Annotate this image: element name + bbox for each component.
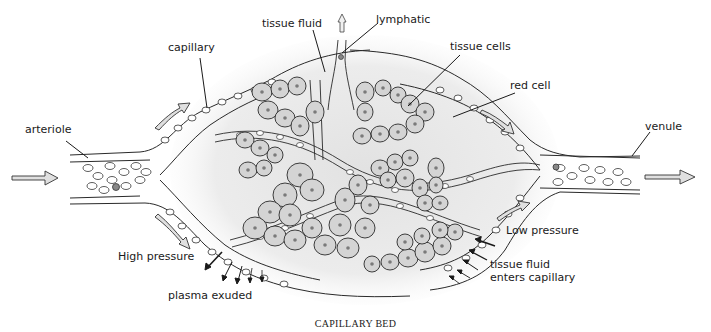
lymphocyte <box>339 55 344 60</box>
label-capillary: capillary <box>168 41 215 54</box>
leader-venule <box>632 132 650 156</box>
label-tissue-fluid: tissue fluid <box>262 17 322 30</box>
label-plasma-exuded: plasma exuded <box>168 289 252 302</box>
label-tissue-cells: tissue cells <box>450 40 511 53</box>
diagram-artwork <box>0 0 711 332</box>
label-red-cell: red cell <box>510 79 550 92</box>
figure-caption: CAPILLARY BED <box>0 318 711 329</box>
leader-arteriole <box>66 141 88 158</box>
label-lymphatic: lymphatic <box>376 13 430 26</box>
label-arteriole: arteriole <box>25 123 71 136</box>
inflow-arrow <box>12 171 58 185</box>
label-tissue-fluid-enters-line1: tissue fluid <box>490 258 550 271</box>
label-high-pressure: High pressure <box>118 250 194 263</box>
label-tissue-fluid-enters-line2: enters capillary <box>490 271 575 284</box>
label-low-pressure: Low pressure <box>506 224 579 237</box>
lymph-outflow-arrow <box>338 14 346 32</box>
capillary-bed-diagram: tissue fluid lymphatic capillary tissue … <box>0 0 711 332</box>
outflow-arrow <box>645 170 695 184</box>
label-venule: venule <box>645 120 682 133</box>
